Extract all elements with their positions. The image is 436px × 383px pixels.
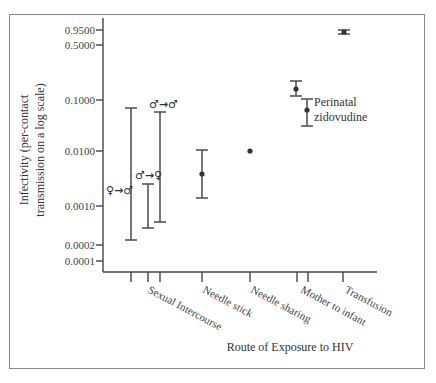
x-axis-title: Route of Exposure to HIV bbox=[227, 340, 354, 354]
data-point bbox=[341, 29, 346, 34]
chart-svg: Infectivity (per-contact transmission on… bbox=[0, 0, 436, 383]
data-point bbox=[247, 148, 252, 153]
y-axis-title-line-1: Infectivity (per-contact bbox=[17, 94, 31, 205]
series-perinatal-zidovudine bbox=[301, 99, 313, 126]
y-axis-title-line-2: transmission on a log scale) bbox=[33, 83, 47, 216]
error-bars bbox=[125, 29, 350, 240]
y-tick-label: 0.1000 bbox=[65, 94, 96, 106]
annotation-symbol: ♂→♂ bbox=[149, 98, 178, 111]
series-transfusion bbox=[338, 29, 350, 34]
x-axis-ticks bbox=[131, 272, 343, 282]
data-point bbox=[304, 107, 309, 112]
annotation-symbol: ♀→♂ bbox=[106, 184, 133, 197]
y-tick-label: 0.0001 bbox=[65, 255, 95, 267]
y-tick-label: 0.0010 bbox=[65, 200, 96, 212]
y-axis-title: Infectivity (per-contact transmission on… bbox=[17, 83, 47, 216]
series-sexual-intercourse-male-male bbox=[154, 112, 166, 222]
annotation-text: zidovudine bbox=[314, 110, 367, 124]
series-needle-sharing bbox=[247, 148, 252, 153]
y-tick-label: 0.5000 bbox=[65, 39, 96, 51]
y-axis-ticks: 0.95000.50000.10000.01000.00100.00020.00… bbox=[65, 24, 103, 267]
y-tick-label: 0.0100 bbox=[65, 145, 96, 157]
y-tick-label: 0.0002 bbox=[65, 239, 95, 251]
series-mother-to-infant bbox=[290, 81, 302, 96]
series-needle-stick bbox=[196, 150, 208, 198]
y-tick-label: 0.9500 bbox=[65, 24, 96, 36]
annotations: Perinatalzidovudine♀→♂♂→♀♂→♂ bbox=[106, 95, 367, 197]
annotation-symbol: ♂→♀ bbox=[135, 169, 162, 182]
data-point bbox=[293, 86, 298, 91]
series-sexual-intercourse-male-female bbox=[142, 184, 154, 228]
category-labels: Sexual IntercourseNeedle stickNeedle sha… bbox=[146, 283, 395, 332]
annotation-text: Perinatal bbox=[314, 95, 357, 109]
data-point bbox=[199, 171, 204, 176]
